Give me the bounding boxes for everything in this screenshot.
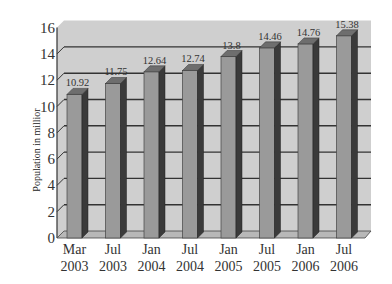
bar: 14.46 xyxy=(258,31,282,238)
y-tick-label: 10 xyxy=(40,99,55,115)
x-tick-month: Jul xyxy=(336,242,352,257)
x-tick-year: 2005 xyxy=(253,259,281,274)
bar: 12.64 xyxy=(143,55,167,238)
bar: 12.74 xyxy=(181,53,205,238)
x-tick-month: Mar xyxy=(63,242,87,257)
bar-side xyxy=(313,38,319,238)
bar: 14.76 xyxy=(297,27,321,238)
floor-surface xyxy=(57,231,371,238)
bar-front xyxy=(144,72,159,238)
bar-side xyxy=(198,64,204,238)
x-tick-month: Jan xyxy=(219,242,238,257)
y-tick-label: 4 xyxy=(48,177,56,193)
bar-side xyxy=(82,88,88,238)
bar-front xyxy=(106,83,121,238)
bar-side xyxy=(236,51,242,238)
x-tick-year: 2005 xyxy=(215,259,243,274)
bar-front xyxy=(67,94,82,238)
x-tick-month: Jul xyxy=(182,242,198,257)
value-label: 11.75 xyxy=(104,66,127,77)
bar: 13.8 xyxy=(221,40,242,238)
x-tick-year: 2006 xyxy=(292,259,320,274)
bar-side xyxy=(352,30,358,238)
x-tick-month: Jul xyxy=(259,242,275,257)
value-label: 12.74 xyxy=(181,53,205,64)
x-tick-year: 2004 xyxy=(138,259,166,274)
bar-front xyxy=(221,57,236,238)
x-tick-year: 2003 xyxy=(99,259,127,274)
y-tick-label: 0 xyxy=(48,230,56,246)
bar-chart: 0246810121416 10.9211.7512.6412.7413.814… xyxy=(0,0,392,284)
bar-side xyxy=(159,66,165,238)
y-tick-label: 6 xyxy=(48,151,56,167)
y-axis-label: Population in millior xyxy=(31,108,42,192)
value-label: 14.76 xyxy=(297,27,321,38)
y-tick-label: 12 xyxy=(40,72,55,88)
x-axis: Mar2003Jul2003Jan2004Jul2004Jan2005Jul20… xyxy=(61,242,359,274)
bar: 15.38 xyxy=(335,19,359,238)
value-label: 12.64 xyxy=(143,55,167,66)
bar: 11.75 xyxy=(104,66,127,238)
value-label: 10.92 xyxy=(66,77,90,88)
value-label: 15.38 xyxy=(335,19,359,30)
bar-front xyxy=(337,36,352,238)
bar: 10.92 xyxy=(66,77,90,238)
bar-front xyxy=(183,70,198,238)
y-tick-label: 14 xyxy=(40,46,56,62)
value-label: 13.8 xyxy=(222,40,240,51)
bar-side xyxy=(275,42,281,238)
bar-side xyxy=(121,77,127,238)
y-axis: 0246810121416 xyxy=(40,20,57,246)
y-tick-label: 8 xyxy=(48,125,56,141)
y-tick-label: 2 xyxy=(48,204,56,220)
value-label: 14.46 xyxy=(258,31,282,42)
x-tick-year: 2004 xyxy=(176,259,204,274)
bar-front xyxy=(298,44,313,238)
bar-front xyxy=(260,48,275,238)
y-tick-label: 16 xyxy=(40,20,56,36)
x-tick-month: Jan xyxy=(296,242,315,257)
x-tick-month: Jul xyxy=(105,242,121,257)
x-tick-year: 2006 xyxy=(330,259,358,274)
plot-floor xyxy=(57,231,371,238)
x-tick-month: Jan xyxy=(142,242,161,257)
x-tick-year: 2003 xyxy=(61,259,89,274)
